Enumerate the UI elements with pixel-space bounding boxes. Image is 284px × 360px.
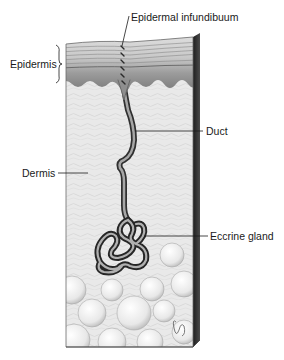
diagram-stage: Epidermal infundibuum Epidermis Duct Der… — [0, 0, 284, 360]
label-eccrine-gland: Eccrine gland — [210, 230, 274, 242]
label-epidermal-infundibuum: Epidermal infundibuum — [131, 11, 238, 23]
skin-block-illustration — [0, 0, 284, 360]
epidermis-brace — [56, 45, 62, 83]
block-side-face — [193, 33, 200, 347]
label-duct: Duct — [206, 125, 228, 137]
label-dermis: Dermis — [22, 167, 55, 179]
label-epidermis: Epidermis — [10, 58, 57, 70]
